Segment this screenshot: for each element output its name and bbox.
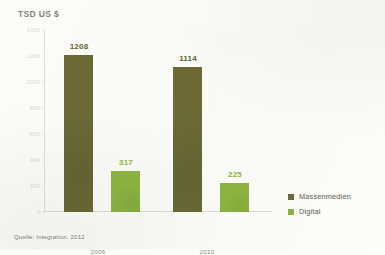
- y-axis-tick-200: 200: [10, 183, 40, 189]
- legend-swatch-icon-massenmedien: [288, 194, 294, 200]
- legend-label-digital: Digital: [299, 207, 321, 216]
- y-tick-mark-1400: [42, 30, 45, 31]
- y-axis-title: TSD US $: [18, 9, 59, 19]
- bar-value-digital-2006: 317: [96, 158, 156, 167]
- y-tick-mark-1000: [42, 82, 45, 83]
- y-axis-tick-400: 400: [10, 157, 40, 163]
- y-tick-mark-0: [42, 212, 45, 213]
- y-tick-mark-200: [42, 186, 45, 187]
- y-tick-mark-1200: [42, 56, 45, 57]
- x-axis-label-2010: 2010: [167, 248, 247, 255]
- y-tick-mark-400: [42, 160, 45, 161]
- bar-massenmedien-2006[interactable]: [64, 55, 93, 212]
- y-axis-tick-1000: 1000: [10, 79, 40, 85]
- y-tick-mark-600: [42, 134, 45, 135]
- y-tick-mark-800: [42, 108, 45, 109]
- legend-label-massenmedien: Massenmedien: [299, 192, 351, 201]
- y-axis-tick-1200: 1200: [10, 53, 40, 59]
- bar-group-2010: 1114 225: [173, 30, 263, 212]
- y-axis-tick-600: 600: [10, 131, 40, 137]
- legend-item-massenmedien[interactable]: Massenmedien: [288, 192, 351, 201]
- legend-item-digital[interactable]: Digital: [288, 207, 351, 216]
- plot-area: 1400 1200 1000 800 600 400 200 0 1208 31…: [44, 30, 272, 212]
- source-note: Quelle: Integration, 2012: [14, 234, 85, 240]
- y-axis-tick-800: 800: [10, 105, 40, 111]
- bar-value-massenmedien-2010: 1114: [158, 54, 218, 63]
- y-axis-tick-0: 0: [10, 209, 40, 215]
- legend-swatch-icon-digital: [288, 209, 294, 215]
- bar-digital-2010[interactable]: [220, 183, 249, 212]
- y-axis-tick-1400: 1400: [10, 27, 40, 33]
- bar-value-digital-2010: 225: [205, 170, 265, 179]
- bar-massenmedien-2010[interactable]: [173, 67, 202, 212]
- x-axis-label-2006: 2006: [58, 248, 138, 255]
- bar-digital-2006[interactable]: [111, 171, 140, 212]
- bar-group-2006: 1208 317: [64, 30, 154, 212]
- legend: Massenmedien Digital: [288, 192, 351, 222]
- bar-value-massenmedien-2006: 1208: [49, 42, 109, 51]
